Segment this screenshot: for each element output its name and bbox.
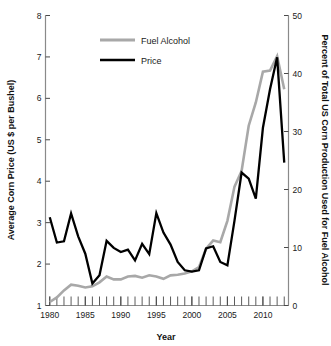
x-axis-tick-labels: 1980198519901995200020052010	[40, 310, 272, 320]
right-tick-label: 20	[293, 185, 303, 195]
x-axis-ticks	[50, 297, 284, 306]
data-series-group	[50, 56, 284, 302]
legend-label-fuel-alcohol: Fuel Alcohol	[141, 36, 190, 46]
y-axis-right-title: Percent of Total US Corn Production Used…	[320, 34, 330, 285]
x-axis-title: Year	[156, 332, 176, 342]
chart-legend: Fuel AlcoholPrice	[100, 36, 190, 66]
left-tick-label: 8	[37, 11, 42, 21]
x-tick-label: 2000	[182, 310, 201, 320]
x-tick-label: 2010	[253, 310, 272, 320]
series-line-price	[50, 57, 284, 283]
left-tick-label: 4	[37, 176, 42, 186]
corn-price-fuel-alcohol-chart: 12345678 01020304050 1980198519901995200…	[0, 0, 331, 346]
x-tick-label: 1990	[111, 310, 130, 320]
axes-group	[46, 16, 289, 306]
x-tick-label: 1995	[147, 310, 166, 320]
left-tick-label: 5	[37, 135, 42, 145]
x-tick-label: 1980	[40, 310, 59, 320]
left-tick-label: 3	[37, 218, 42, 228]
right-tick-label: 50	[293, 11, 303, 21]
left-tick-label: 7	[37, 52, 42, 62]
right-tick-label: 0	[293, 301, 298, 311]
chart-container: 12345678 01020304050 1980198519901995200…	[0, 0, 331, 346]
right-tick-label: 40	[293, 69, 303, 79]
x-tick-label: 2005	[218, 310, 237, 320]
left-tick-label: 6	[37, 93, 42, 103]
right-axis-tick-labels: 01020304050	[293, 11, 303, 311]
right-tick-label: 30	[293, 127, 303, 137]
legend-label-price: Price	[141, 56, 162, 66]
left-axis-ticks	[46, 16, 51, 306]
left-tick-label: 2	[37, 259, 42, 269]
right-tick-label: 10	[293, 243, 303, 253]
x-tick-label: 1985	[76, 310, 95, 320]
y-axis-left-title: Average Corn Price (US $ per Bushel)	[6, 80, 16, 241]
left-axis-tick-labels: 12345678	[37, 11, 42, 311]
